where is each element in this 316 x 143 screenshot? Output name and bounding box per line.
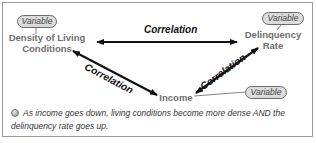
node-delinquency: Delinquency Rate [243, 29, 303, 51]
variable-tag-density: Variable [17, 15, 57, 28]
node-density-line1: Density of Living [7, 32, 87, 43]
bullet-icon [11, 109, 19, 117]
node-density-line2: Conditions [7, 43, 87, 54]
arrow-density-income [73, 51, 157, 95]
variable-tag-income: Variable [245, 86, 287, 99]
node-delinquency-line2: Rate [243, 40, 303, 51]
explanation-note: As income goes down, living conditions b… [11, 107, 311, 133]
variable-tag-delinquency: Variable [262, 12, 304, 25]
node-delinquency-line1: Delinquency [243, 29, 303, 40]
node-density: Density of Living Conditions [7, 32, 87, 54]
note-text: As income goes down, living conditions b… [11, 108, 285, 131]
edge-label-top: Correlation [144, 24, 197, 35]
node-income: Income [158, 92, 194, 103]
diagram-frame: Variable Density of Living Conditions Va… [2, 2, 313, 137]
